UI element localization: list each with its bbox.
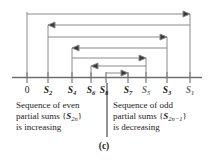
- arrow-s1-to-s2: [27, 11, 190, 17]
- caption-odd-line2-post: }: [182, 111, 186, 121]
- caption-even-line2-post: }: [78, 111, 82, 121]
- axis-label-s8-subscript: 8: [105, 89, 108, 96]
- caption-even-line2-subscript: 2n: [71, 115, 78, 122]
- caption-odd-partial-sums: Sequence of odd partial sums {S2n−1} is …: [113, 100, 187, 134]
- number-line-diagram: [0, 0, 208, 160]
- arrow-s4-to-s5: [72, 45, 167, 51]
- caption-odd-line2-pre: partial sums {: [113, 111, 163, 121]
- arrow-s6-to-s7: [91, 63, 146, 69]
- axis-label-s8: S8: [100, 86, 109, 96]
- caption-even-line3: is increasing: [16, 122, 82, 133]
- axis-label-s2: S2: [44, 86, 53, 96]
- axis-label-s3: S3: [163, 86, 172, 96]
- axis-label-s1: S1: [186, 86, 195, 96]
- caption-even-partial-sums: Sequence of even partial sums {S2n} is i…: [16, 100, 82, 134]
- bracket-stems: [27, 12, 190, 77]
- caption-odd-line3: is decreasing: [113, 122, 187, 133]
- caption-odd-line1: Sequence of odd: [113, 100, 187, 111]
- caption-even-line2: partial sums {S2n}: [16, 111, 82, 122]
- arrow-s2-to-s3: [48, 22, 190, 28]
- axis-label-s7: S7: [124, 86, 133, 96]
- axis-label-s1-subscript: 1: [191, 89, 194, 96]
- axis-label-s6-subscript: 6: [92, 89, 95, 96]
- bracket-arrows: [27, 11, 190, 76]
- axis-label-s5: S5: [142, 86, 151, 96]
- caption-odd-line2: partial sums {S2n−1}: [113, 111, 187, 122]
- arrow-s5-to-s6: [72, 55, 146, 61]
- alternating-series-partial-sums-figure: 0 S2 S4 S6 S8 S7 S5 S3 S1 Sequence of ev…: [0, 0, 208, 160]
- axis-label-s5-subscript: 5: [147, 89, 150, 96]
- caption-even-line2-pre: partial sums {: [16, 111, 66, 121]
- caption-even-line1: Sequence of even: [16, 100, 82, 111]
- caption-odd-line2-subscript: 2n−1: [168, 115, 182, 122]
- axis-label-s2-subscript: 2: [49, 89, 52, 96]
- axis-label-s3-subscript: 3: [168, 89, 171, 96]
- axis-label-s6: S6: [87, 86, 96, 96]
- axis-label-s7-subscript: 7: [129, 89, 132, 96]
- axis-label-zero: 0: [25, 86, 30, 96]
- arrow-s7-to-s8: [106, 70, 128, 76]
- panel-label: (c): [0, 141, 208, 151]
- arrow-s3-to-s4: [48, 34, 167, 40]
- axis-label-s4: S4: [68, 86, 77, 96]
- axis-label-s4-subscript: 4: [73, 89, 76, 96]
